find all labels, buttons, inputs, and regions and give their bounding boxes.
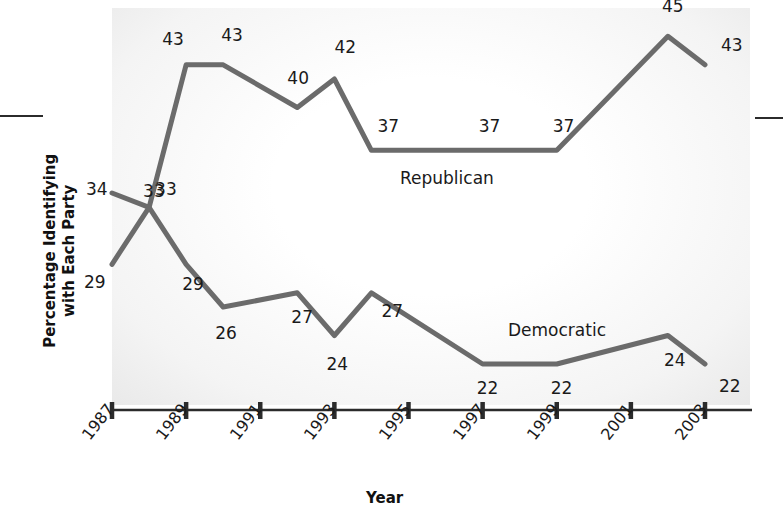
democratic-value-1999: 22: [551, 378, 573, 398]
democratic-value-2002: 24: [664, 350, 686, 370]
x-axis-title: Year: [366, 489, 403, 507]
republican-value-2003: 43: [721, 35, 743, 55]
democratic-value-1993: 24: [326, 354, 348, 374]
republican-value-1993: 42: [334, 37, 356, 57]
chart-figure: 3433434340423737374543293329262724272222…: [0, 0, 783, 523]
democratic-value-1990: 26: [215, 323, 237, 343]
democratic-value-1997: 22: [477, 378, 499, 398]
democratic-value-1994: 27: [381, 301, 403, 321]
republican-value-1999: 37: [553, 116, 575, 136]
chart-canvas: [0, 0, 783, 523]
series-lines: [112, 36, 705, 364]
democratic-value-1988: 33: [155, 179, 177, 199]
republican-value-1989: 43: [162, 29, 184, 49]
republican-value-1987: 34: [86, 179, 108, 199]
democratic-series-label: Democratic: [508, 320, 606, 340]
democratic-value-1989: 29: [182, 274, 204, 294]
x-axis: [110, 402, 752, 419]
republican-series-label: Republican: [400, 168, 494, 188]
republican-value-1992: 40: [287, 68, 309, 88]
republican-value-1994: 37: [377, 116, 399, 136]
y-axis-title: Percentage Identifying with Each Party: [41, 151, 79, 351]
republican-value-1997: 37: [479, 116, 501, 136]
democratic-value-1987: 29: [84, 272, 106, 292]
democratic-value-1992: 27: [291, 307, 313, 327]
democratic-value-2003: 22: [719, 376, 741, 396]
republican-value-1990: 43: [221, 25, 243, 45]
republican-value-2002: 45: [662, 0, 684, 16]
